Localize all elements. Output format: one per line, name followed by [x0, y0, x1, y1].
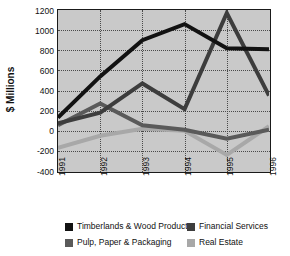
legend-swatch [65, 239, 73, 247]
x-axis-tick-label: 1994 [184, 157, 193, 176]
x-axis-tick-label: 1991 [58, 157, 67, 176]
y-axis-tick-label: 200 [20, 107, 54, 115]
y-axis-tick-label: 800 [20, 47, 54, 55]
x-axis-tick: 1995 [207, 175, 247, 185]
legend-label: Pulp, Paper & Packaging [77, 238, 172, 247]
legend-item: Pulp, Paper & Packaging [65, 238, 172, 247]
legend-swatch [65, 223, 73, 231]
x-axis-tick: 1992 [81, 175, 121, 185]
legend-label: Real Estate [199, 238, 243, 247]
legend-item: Financial Services [187, 222, 268, 231]
series-line [58, 126, 269, 155]
y-axis-title-container: $ Millions [0, 40, 21, 150]
y-axis-tick-labels: 120010008006004002000-200-400 [20, 0, 54, 256]
legend-label: Financial Services [199, 222, 268, 231]
legend-swatch [187, 239, 195, 247]
y-axis-tick-label: 600 [20, 67, 54, 75]
x-axis-tick-labels: 199119921993199419951996 [57, 175, 271, 215]
series-line [58, 104, 269, 139]
x-axis-tick: 1996 [250, 175, 290, 185]
x-axis-tick-label: 1992 [100, 157, 109, 176]
y-axis-tick-label: 1200 [20, 7, 54, 15]
x-axis-tick: 1993 [123, 175, 163, 185]
legend-item: Real Estate [187, 238, 243, 247]
y-axis-tick-label: 400 [20, 87, 54, 95]
line-chart: $ Millions 120010008006004002000-200-400… [0, 0, 290, 256]
x-axis-tick-label: 1996 [269, 157, 278, 176]
x-axis-tick: 1994 [165, 175, 205, 185]
x-axis-tick-label: 1995 [226, 157, 235, 176]
x-axis-tick: 1991 [39, 175, 79, 185]
legend-item: Timberlands & Wood Products [65, 222, 192, 231]
chart-legend: Timberlands & Wood ProductsPulp, Paper &… [60, 222, 290, 254]
y-axis-title: $ Millions [5, 35, 16, 145]
y-axis-tick-label: 0 [20, 127, 54, 135]
y-axis-tick-label: 1000 [20, 27, 54, 35]
series-line [58, 24, 269, 118]
legend-swatch [187, 223, 195, 231]
series-lines [58, 10, 269, 171]
legend-label: Timberlands & Wood Products [77, 222, 192, 231]
y-axis-tick-label: -200 [20, 147, 54, 155]
x-axis-tick-label: 1993 [142, 157, 151, 176]
series-line [58, 13, 269, 123]
plot-area [57, 9, 271, 173]
